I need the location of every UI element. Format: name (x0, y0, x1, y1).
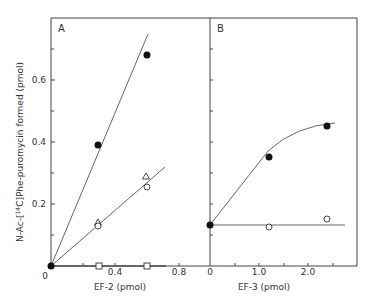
open-circle-marker (324, 216, 330, 222)
panel-a (51, 18, 210, 266)
fit-line-filled (51, 34, 148, 266)
filled-circle-marker (207, 222, 214, 229)
panel-b-fit-lines (210, 123, 345, 225)
y-tick-label: 0.6 (32, 75, 47, 85)
x-axis-label-a: EF-2 (pmol) (94, 282, 146, 292)
open-triangle-marker (143, 173, 150, 179)
panel-b-letter: B (217, 23, 224, 34)
panel-a-letter: A (58, 23, 65, 34)
y-tick-label: 0.4 (32, 137, 47, 147)
fit-curve-filled (210, 123, 335, 225)
figure: A B 0.2 0.4 0.6 0 0.4 0.8 0 (0, 0, 371, 302)
x-tick-label: 0.8 (172, 267, 187, 277)
filled-circle-marker (144, 52, 151, 59)
open-square-marker (96, 263, 102, 269)
open-circle-marker (95, 223, 101, 229)
filled-circle-marker (266, 154, 273, 161)
panel-a-fit-lines (51, 34, 166, 266)
y-tick-label: 0.2 (32, 199, 46, 209)
filled-circle-marker (324, 123, 331, 130)
x-axis-label-b: EF-3 (pmol) (238, 282, 290, 292)
filled-circle-marker (95, 142, 102, 149)
y-axis-label: N-Ac-[14C]Phe-puromycin formed (pmol) (14, 62, 25, 242)
open-circle-marker (266, 224, 272, 230)
x-tick-label: 2.0 (301, 267, 316, 277)
x-tick-label: 0 (42, 271, 48, 281)
panel-b (210, 18, 357, 266)
x-tick-label: 1.0 (252, 267, 267, 277)
fit-line-open (51, 167, 165, 266)
panel-a-y-ticks (51, 49, 55, 235)
open-square-marker (144, 263, 150, 269)
panel-b-markers (207, 123, 331, 231)
filled-circle-marker (48, 263, 55, 270)
open-circle-marker (144, 184, 150, 190)
x-tick-label: 0 (207, 267, 213, 277)
x-tick-label: 0.4 (108, 267, 123, 277)
